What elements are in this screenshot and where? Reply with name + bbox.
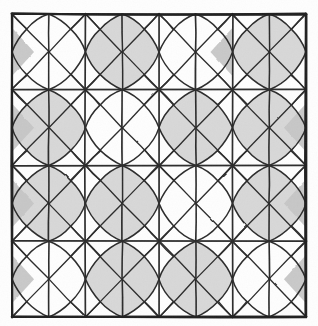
paper-grain-overlay <box>0 0 318 326</box>
tessellation-figure <box>0 0 318 326</box>
tiling-drawing <box>0 0 318 326</box>
